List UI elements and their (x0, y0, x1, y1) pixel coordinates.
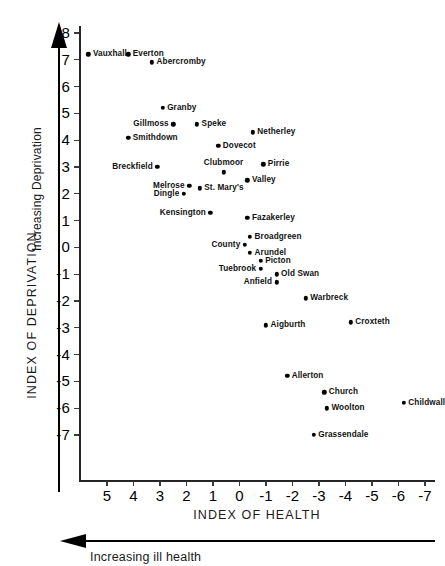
data-point[interactable] (86, 52, 90, 56)
x-tick-mark (239, 481, 240, 486)
data-point[interactable] (304, 296, 308, 300)
y-tick-mark (74, 32, 79, 33)
x-tick-label: 1 (200, 487, 226, 504)
y-tick-label: 2 (44, 186, 70, 201)
data-point[interactable] (261, 162, 265, 166)
data-point-label: Dovecot (223, 141, 256, 149)
data-point[interactable] (248, 251, 252, 255)
y-tick-mark (74, 220, 79, 221)
y-tick-label-wrap: 7 (44, 52, 70, 67)
data-point[interactable] (126, 52, 130, 56)
data-point[interactable] (195, 122, 199, 126)
data-point[interactable] (258, 267, 262, 271)
x-tick-label-wrap: 0 (227, 487, 253, 504)
y-tick-label-wrap: -2 (44, 293, 70, 308)
data-point[interactable] (325, 406, 329, 410)
y-tick-label: 1 (44, 213, 70, 228)
y-tick-mark (74, 193, 79, 194)
data-point[interactable] (155, 165, 159, 169)
x-tick-label-wrap: -5 (359, 487, 385, 504)
data-point-label: St. Mary's (204, 184, 243, 192)
data-point-label: Grassendale (318, 431, 368, 439)
x-tick-label: -5 (359, 487, 385, 504)
y-tick-label: 8 (44, 25, 70, 40)
x-tick-label-wrap: 4 (121, 487, 147, 504)
data-point-label: Dingle (154, 190, 180, 198)
x-tick-label: 5 (94, 487, 120, 504)
data-point-label: Granby (167, 104, 196, 112)
x-tick-label: -1 (253, 487, 279, 504)
y-tick-label-wrap: -1 (44, 266, 70, 281)
x-tick-label-wrap: -7 (412, 487, 438, 504)
y-tick-label: 7 (44, 52, 70, 67)
x-tick-label: -4 (333, 487, 359, 504)
data-point[interactable] (150, 60, 154, 64)
y-tick-label: -2 (44, 293, 70, 308)
x-tick-mark (371, 481, 372, 486)
data-point[interactable] (126, 135, 130, 139)
data-point[interactable] (251, 130, 255, 134)
data-point-label: Aigburth (271, 321, 306, 329)
data-point-label: Broadgreen (255, 233, 302, 241)
y-tick-label-wrap: -5 (44, 373, 70, 388)
x-tick-mark (424, 481, 425, 486)
x-tick-mark (292, 481, 293, 486)
data-point[interactable] (248, 234, 252, 238)
data-point[interactable] (274, 272, 278, 276)
data-point[interactable] (285, 374, 289, 378)
x-tick-label-wrap: -3 (306, 487, 332, 504)
data-point-label: Warbreck (310, 294, 348, 302)
left-arrow-icon (60, 534, 86, 548)
data-point[interactable] (171, 122, 175, 126)
data-point[interactable] (221, 170, 225, 174)
data-point-label: Woolton (331, 404, 364, 412)
x-tick-label: 3 (147, 487, 173, 504)
y-tick-mark (74, 300, 79, 301)
data-point[interactable] (182, 192, 186, 196)
data-point[interactable] (322, 390, 326, 394)
x-tick-label-wrap: -2 (280, 487, 306, 504)
data-point[interactable] (198, 186, 202, 190)
x-tick-label-wrap: -1 (253, 487, 279, 504)
y-tick-label-wrap: 2 (44, 186, 70, 201)
x-tick-label: -6 (386, 487, 412, 504)
x-tick-label: -7 (412, 487, 438, 504)
data-point[interactable] (264, 323, 268, 327)
data-point[interactable] (274, 280, 278, 284)
data-point[interactable] (160, 106, 164, 110)
data-point[interactable] (216, 143, 220, 147)
y-tick-label: 5 (44, 105, 70, 120)
data-point-label: Smithdown (133, 133, 178, 141)
data-point-label: Church (329, 388, 358, 396)
y-tick-label-wrap: 1 (44, 213, 70, 228)
data-point[interactable] (402, 401, 406, 405)
y-tick-mark (74, 140, 79, 141)
x-axis-title: INDEX OF HEALTH (79, 508, 435, 522)
data-point[interactable] (245, 216, 249, 220)
y-tick-label-wrap: 3 (44, 159, 70, 174)
x-tick-label-wrap: 1 (200, 487, 226, 504)
data-point[interactable] (245, 178, 249, 182)
data-point-label: Abercromby (157, 58, 206, 66)
x-tick-mark (186, 481, 187, 486)
y-tick-label-wrap: -4 (44, 347, 70, 362)
y-tick-mark (74, 408, 79, 409)
data-point[interactable] (187, 184, 191, 188)
data-point-label: Tuebrook (219, 265, 257, 273)
data-point-label: Croxteth (355, 318, 389, 326)
data-point[interactable] (208, 210, 212, 214)
data-point[interactable] (258, 259, 262, 263)
data-point[interactable] (243, 243, 247, 247)
y-tick-mark (74, 274, 79, 275)
y-tick-mark (74, 166, 79, 167)
x-tick-label-wrap: -4 (333, 487, 359, 504)
data-point[interactable] (349, 320, 353, 324)
y-tick-label: 0 (44, 239, 70, 254)
y-tick-mark (74, 327, 79, 328)
y-tick-mark (74, 247, 79, 248)
data-point-label: Vauxhall (93, 50, 127, 58)
y-tick-label: -5 (44, 373, 70, 388)
data-point[interactable] (311, 433, 315, 437)
y-tick-label-wrap: 0 (44, 239, 70, 254)
